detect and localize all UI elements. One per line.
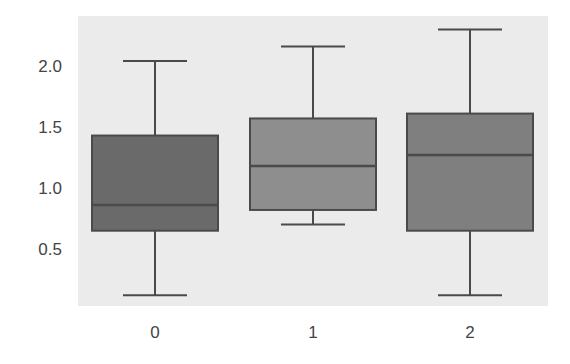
x-axis-ticks: 012 xyxy=(150,323,474,342)
y-tick-label: 2.0 xyxy=(38,57,62,76)
iqr-box xyxy=(92,136,218,231)
y-axis-ticks: 0.51.01.52.0 xyxy=(38,57,62,259)
iqr-box xyxy=(250,118,376,209)
x-tick-label: 2 xyxy=(465,323,474,342)
iqr-box xyxy=(407,114,533,231)
x-tick-label: 0 xyxy=(150,323,159,342)
boxplot-chart: 0.51.01.52.0 012 xyxy=(0,0,570,364)
x-tick-label: 1 xyxy=(308,323,317,342)
y-tick-label: 1.0 xyxy=(38,179,62,198)
y-tick-label: 1.5 xyxy=(38,118,62,137)
y-tick-label: 0.5 xyxy=(38,240,62,259)
